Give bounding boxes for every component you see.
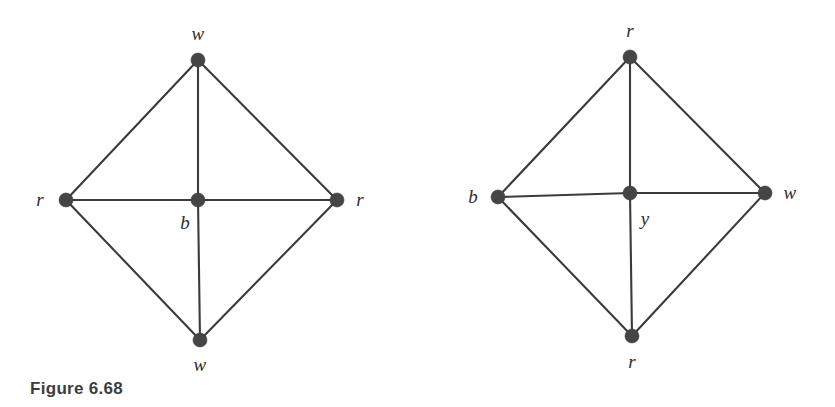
graph-vertex: [623, 50, 637, 64]
vertex-label-b: b: [180, 213, 190, 232]
vertex-label-r: r: [628, 352, 636, 371]
graph-edge: [66, 60, 198, 200]
graph-drawing-canvas: [0, 0, 835, 407]
graph-edge: [498, 57, 630, 197]
figure-caption: Figure 6.68: [30, 379, 123, 399]
graph-edge: [630, 57, 765, 193]
vertex-label-r: r: [626, 21, 634, 40]
graph-vertex: [59, 193, 73, 207]
graph-vertex: [191, 53, 205, 67]
vertex-label-r: r: [36, 190, 44, 209]
figure-container: wrbrwrbywr Figure 6.68: [0, 0, 835, 407]
graph-vertex: [193, 333, 207, 347]
left-graph: [59, 53, 344, 347]
vertex-label-b: b: [468, 187, 478, 206]
vertex-label-w: w: [784, 183, 797, 202]
graph-vertex: [330, 193, 344, 207]
graph-vertex: [758, 186, 772, 200]
graph-edge: [632, 193, 765, 336]
graph-vertex: [191, 193, 205, 207]
graph-edge: [630, 193, 632, 336]
graph-vertex: [491, 190, 505, 204]
graph-edge: [498, 197, 632, 336]
graph-vertex: [623, 186, 637, 200]
graph-edge: [198, 200, 200, 340]
graph-edge: [200, 200, 337, 340]
vertex-label-w: w: [194, 355, 207, 374]
vertex-label-w: w: [192, 24, 205, 43]
graph-edge: [198, 60, 337, 200]
vertex-label-y: y: [641, 209, 650, 228]
vertex-label-r: r: [356, 190, 364, 209]
right-graph: [491, 50, 772, 343]
graph-vertex: [625, 329, 639, 343]
graph-edge: [498, 193, 630, 197]
